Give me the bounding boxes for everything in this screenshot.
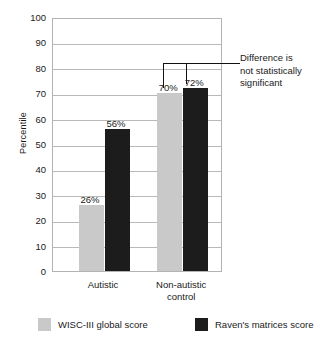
y-axis-tick-label: 40 [0, 165, 46, 175]
chart-container: Percentile 1009080706050403020100 Autist… [0, 0, 323, 341]
legend-label: Raven's matrices score [215, 319, 313, 330]
y-axis-tick-label: 60 [0, 115, 46, 125]
chart-legend: WISC-III global scoreRaven's matrices sc… [0, 318, 323, 338]
gridline [53, 69, 221, 70]
bar [79, 205, 104, 271]
plot-area [52, 18, 222, 272]
annotation-line: Difference is [240, 52, 322, 65]
annotation-line: significant [240, 77, 322, 90]
bar-value-label: 26% [77, 195, 104, 205]
y-axis-tick-label: 50 [0, 140, 46, 150]
annotation-line: not statistically [240, 65, 322, 78]
y-axis-tick-label: 80 [0, 64, 46, 74]
annotation-text: Difference isnot statisticallysignifican… [240, 52, 322, 90]
bar-value-label: 72% [181, 78, 208, 88]
y-axis-tick-label: 90 [0, 38, 46, 48]
legend-item[interactable]: WISC-III global score [38, 318, 148, 331]
x-axis-tick-label: Non-autistic control [131, 279, 231, 303]
legend-swatch [38, 318, 51, 331]
bar [157, 93, 182, 271]
legend-swatch [195, 318, 208, 331]
y-axis-tick-label: 30 [0, 191, 46, 201]
y-axis-tick-label: 10 [0, 242, 46, 252]
gridline [53, 44, 221, 45]
y-axis-tick-label: 100 [0, 13, 46, 23]
annotation-bracket-horizontal [163, 63, 240, 64]
bar-value-label: 70% [155, 83, 182, 93]
bar-value-label: 56% [103, 119, 130, 129]
bar [183, 88, 208, 271]
bar [105, 129, 130, 271]
y-axis-tick-label: 20 [0, 216, 46, 226]
legend-item[interactable]: Raven's matrices score [195, 318, 313, 331]
y-axis-tick-label: 70 [0, 89, 46, 99]
legend-label: WISC-III global score [58, 319, 148, 330]
y-axis-tick-label: 0 [0, 267, 46, 277]
